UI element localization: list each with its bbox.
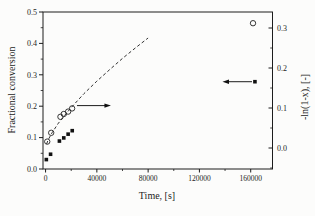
left-tick-label: 0.1 bbox=[27, 133, 37, 142]
left-tick-label: 0.4 bbox=[27, 39, 37, 48]
circles-read-right-axis-arrow-head bbox=[104, 103, 111, 107]
data-point-circle bbox=[250, 21, 255, 26]
left-axis-title: Fractional conversion bbox=[6, 47, 17, 134]
plot-border bbox=[43, 12, 273, 169]
left-tick-label: 0.3 bbox=[27, 71, 37, 80]
chart-canvas: 040000800001200001600000.00.10.20.30.40.… bbox=[0, 0, 315, 216]
scatter-figure: 040000800001200001600000.00.10.20.30.40.… bbox=[0, 0, 315, 216]
right-tick-label: 0.1 bbox=[277, 104, 287, 113]
x-tick-label: 80000 bbox=[139, 174, 158, 183]
data-point-square bbox=[66, 132, 70, 136]
right-tick-label: 0.2 bbox=[277, 64, 287, 73]
data-point-circle bbox=[58, 114, 63, 119]
x-tick-label: 160000 bbox=[239, 174, 262, 183]
data-point-square bbox=[49, 152, 53, 156]
data-point-square bbox=[70, 129, 74, 133]
data-point-circle bbox=[49, 130, 54, 135]
x-tick-label: 120000 bbox=[188, 174, 211, 183]
left-tick-label: 0.2 bbox=[27, 102, 37, 111]
left-tick-label: 0.5 bbox=[27, 8, 37, 17]
x-axis-title: Time, [s] bbox=[139, 190, 175, 201]
x-tick-label: 0 bbox=[44, 174, 48, 183]
data-point-square bbox=[62, 136, 66, 140]
fit-dashed-line bbox=[47, 38, 149, 144]
right-tick-label: 0.3 bbox=[277, 24, 287, 33]
left-tick-label: 0.0 bbox=[27, 165, 37, 174]
data-point-square bbox=[58, 139, 62, 143]
right-tick-label: 0.0 bbox=[277, 144, 287, 153]
data-point-square bbox=[45, 158, 49, 162]
squares-read-left-axis-arrow-head bbox=[222, 80, 229, 84]
x-tick-label: 40000 bbox=[87, 174, 106, 183]
data-point-square bbox=[253, 80, 257, 84]
right-axis-title: -ln(1-x), [-] bbox=[299, 74, 310, 120]
